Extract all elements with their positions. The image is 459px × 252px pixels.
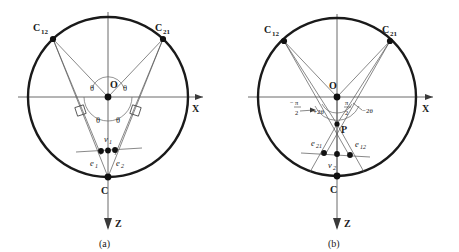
label-x-axis-b: X <box>422 103 430 114</box>
x-axis-b <box>248 94 433 100</box>
point-o-b <box>334 94 341 101</box>
label-v1-a: v <box>104 134 108 144</box>
angle-left-suffix: +2θ <box>313 108 324 116</box>
point-o-a <box>105 94 112 101</box>
label-theta-a-4: θ <box>116 115 120 125</box>
label-v2-b: v <box>328 160 332 170</box>
label-z-axis-b: Z <box>344 218 351 229</box>
label-c12-sub-a: 12 <box>41 28 49 36</box>
angle-left-prefix: − <box>290 99 294 106</box>
label-c12-a: C <box>33 22 40 33</box>
label-x-axis-a: X <box>192 103 200 114</box>
label-e12-sub-b: 12 <box>360 144 366 150</box>
label-v2-sub-b: 2 <box>333 165 336 171</box>
panel-a: C 12 C 21 O C X Z θ θ θ θ v 1 e 1 e 2 (a… <box>18 12 203 250</box>
angle-left-numerator: π <box>295 99 299 106</box>
label-e1-a: e <box>90 158 94 168</box>
label-theta-a-2: θ <box>123 83 127 93</box>
label-c-b: C <box>330 184 337 195</box>
panel-b: C 12 C 21 O P C X Z − π 2 +2θ π 2 −2 <box>248 14 433 250</box>
label-z-axis-a: Z <box>115 218 122 229</box>
point-c-b <box>334 173 341 180</box>
label-c21-sub-a: 21 <box>163 28 171 36</box>
caption-b: (b) <box>328 238 340 250</box>
point-e21-b <box>321 150 327 156</box>
angle-left-denominator: 2 <box>295 109 298 116</box>
label-e21-sub-b: 21 <box>316 143 322 149</box>
point-c12-a <box>50 36 56 42</box>
label-c-a: C <box>101 185 108 196</box>
point-v2-b <box>334 151 340 157</box>
point-c-a <box>105 174 112 181</box>
label-theta-a-1: θ <box>90 83 94 93</box>
angle-right-suffix: −2θ <box>362 107 373 115</box>
point-c21-b <box>387 38 393 44</box>
label-theta-a-3: θ <box>96 115 100 125</box>
point-c12-b <box>281 38 287 44</box>
label-e21-b: e <box>311 138 315 148</box>
figure-root: C 12 C 21 O C X Z θ θ θ θ v 1 e 1 e 2 (a… <box>0 0 459 252</box>
point-p-b <box>334 121 339 126</box>
label-c21-sub-b: 21 <box>390 30 398 38</box>
point-c21-a <box>160 36 166 42</box>
point-v1-a <box>105 148 111 154</box>
label-p-b: P <box>341 124 347 135</box>
caption-a: (a) <box>99 238 110 250</box>
label-c21-b: C <box>382 24 389 35</box>
label-c12-b: C <box>264 24 271 35</box>
label-v1-sub-a: 1 <box>109 139 112 145</box>
label-e2-sub-a: 2 <box>121 163 124 169</box>
point-e2-a <box>112 147 118 153</box>
label-o-b: O <box>329 80 337 91</box>
label-e2-a: e <box>116 158 120 168</box>
label-c21-a: C <box>155 22 162 33</box>
point-e12-b <box>347 152 353 158</box>
label-e1-sub-a: 1 <box>95 163 98 169</box>
geometry-figure: C 12 C 21 O C X Z θ θ θ θ v 1 e 1 e 2 (a… <box>0 0 459 252</box>
label-o-a: O <box>110 79 118 90</box>
angle-right-numerator: π <box>345 99 349 106</box>
angle-label-left-b: − π 2 +2θ <box>290 99 324 116</box>
angle-right-denominator: 2 <box>345 109 348 116</box>
point-e1-a <box>98 148 104 154</box>
label-c12-sub-b: 12 <box>272 30 280 38</box>
label-e12-b: e <box>355 139 359 149</box>
